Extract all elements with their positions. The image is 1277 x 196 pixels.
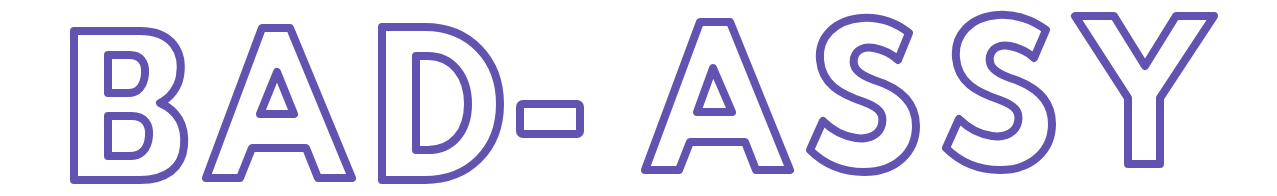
letter-s-1 xyxy=(810,18,916,172)
wordmark-graphic xyxy=(0,0,1277,196)
letter-hyphen xyxy=(520,104,580,134)
letter-d xyxy=(382,27,500,180)
wordmark-logo: BAD- ASSY xyxy=(0,0,1277,196)
letter-s-2 xyxy=(946,15,1052,170)
letter-a-2 xyxy=(645,22,790,170)
letter-y xyxy=(1075,16,1214,164)
letter-a-1 xyxy=(206,28,352,178)
wordmark-letters xyxy=(74,15,1214,180)
letter-b xyxy=(74,31,184,180)
